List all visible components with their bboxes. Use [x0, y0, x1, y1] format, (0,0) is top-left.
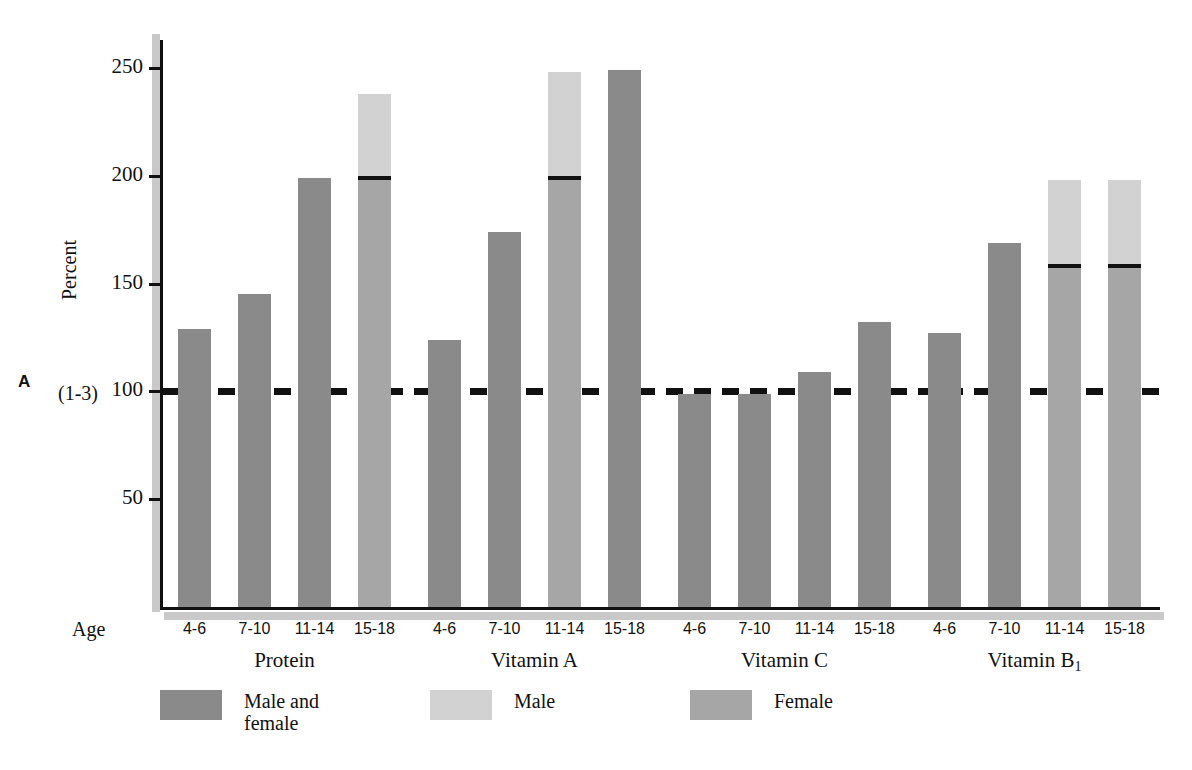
y-tick-50 — [149, 498, 160, 501]
y-tick-250 — [149, 67, 160, 70]
group-label-vitamina: Vitamin A — [425, 648, 645, 673]
bar-segment-female — [1048, 266, 1081, 607]
age-label-protein-11-14: 11-14 — [285, 620, 345, 638]
bar-vitaminc-4-6[interactable] — [678, 394, 711, 607]
bar-segment-female — [358, 178, 391, 607]
legend-label-both: Male and female — [244, 690, 319, 735]
bar-protein-7-10[interactable] — [238, 294, 271, 607]
age-label-vitamina-7-10: 7-10 — [475, 620, 535, 638]
y-tick-label-200: 200 — [63, 164, 143, 185]
age-label-protein-4-6: 4-6 — [165, 620, 225, 638]
bar-vitamina-15-18[interactable] — [608, 70, 641, 607]
legend-item-both[interactable]: Male and female — [160, 690, 319, 735]
bar-vitaminb-11-14[interactable] — [1048, 180, 1081, 607]
group-label-vitaminc: Vitamin C — [675, 648, 895, 673]
x-axis-shadow — [164, 612, 1164, 620]
y-tick-150 — [149, 283, 160, 286]
age-label-vitaminc-4-6: 4-6 — [665, 620, 725, 638]
bar-segment-female — [548, 178, 581, 607]
age-label-vitaminb-4-6: 4-6 — [915, 620, 975, 638]
nutrient-intake-bar-chart: A Percent (1-3) Age 50100150200250 4-67-… — [0, 0, 1192, 770]
female-value-marker — [1048, 264, 1081, 268]
x-axis-line — [160, 607, 1160, 610]
y-axis-shadow — [152, 34, 160, 612]
y-tick-100 — [149, 390, 160, 393]
age-label-vitamina-15-18: 15-18 — [595, 620, 655, 638]
y-tick-200 — [149, 175, 160, 178]
bar-vitaminb-15-18[interactable] — [1108, 180, 1141, 607]
bar-vitaminc-11-14[interactable] — [798, 372, 831, 607]
bar-vitamina-11-14[interactable] — [548, 72, 581, 607]
age-label-vitaminb-7-10: 7-10 — [975, 620, 1035, 638]
y-tick-label-50: 50 — [63, 487, 143, 508]
bar-vitaminb-4-6[interactable] — [928, 333, 961, 607]
female-value-marker — [358, 176, 391, 180]
legend-label-female: Female — [774, 690, 833, 712]
bar-vitamina-4-6[interactable] — [428, 340, 461, 607]
age-label-vitaminc-11-14: 11-14 — [785, 620, 845, 638]
bar-vitaminc-15-18[interactable] — [858, 322, 891, 607]
y-tick-label-100: 100 — [63, 379, 143, 400]
y-tick-label-150: 150 — [63, 272, 143, 293]
bar-segment-female — [1108, 266, 1141, 607]
y-axis-line — [160, 40, 163, 610]
legend-item-female[interactable]: Female — [690, 690, 833, 720]
chart-legend: Male and femaleMaleFemale — [0, 690, 1192, 752]
plot-area: 50100150200250 — [160, 40, 1160, 610]
bar-protein-11-14[interactable] — [298, 178, 331, 607]
bar-protein-4-6[interactable] — [178, 329, 211, 607]
legend-swatch-female — [690, 690, 752, 720]
legend-swatch-both — [160, 690, 222, 720]
bar-protein-15-18[interactable] — [358, 94, 391, 607]
bar-vitaminb-7-10[interactable] — [988, 243, 1021, 607]
age-label-vitaminc-15-18: 15-18 — [845, 620, 905, 638]
age-label-vitamina-11-14: 11-14 — [535, 620, 595, 638]
legend-swatch-male — [430, 690, 492, 720]
bar-vitamina-7-10[interactable] — [488, 232, 521, 607]
legend-item-male[interactable]: Male — [430, 690, 555, 720]
legend-label-male: Male — [514, 690, 555, 712]
panel-label: A — [18, 372, 31, 392]
y-tick-label-250: 250 — [63, 56, 143, 77]
age-label-vitamina-4-6: 4-6 — [415, 620, 475, 638]
age-label-protein-7-10: 7-10 — [225, 620, 285, 638]
age-label-vitaminc-7-10: 7-10 — [725, 620, 785, 638]
female-value-marker — [548, 176, 581, 180]
female-value-marker — [1108, 264, 1141, 268]
age-label-vitaminb-15-18: 15-18 — [1095, 620, 1155, 638]
age-label-vitaminb-11-14: 11-14 — [1035, 620, 1095, 638]
bar-vitaminc-7-10[interactable] — [738, 394, 771, 607]
age-label-protein-15-18: 15-18 — [345, 620, 405, 638]
group-label-vitaminb: Vitamin B1 — [925, 648, 1145, 673]
x-axis-title: Age — [72, 618, 105, 641]
group-label-protein: Protein — [175, 648, 395, 673]
